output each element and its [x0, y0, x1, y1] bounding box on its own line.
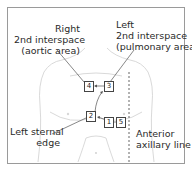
- label-line: (pulmonary area): [116, 41, 192, 52]
- label-left-sternal-edge: Left sternal edge: [10, 126, 60, 148]
- label-line: (aortic area): [14, 45, 80, 56]
- point-1: 1: [104, 117, 114, 128]
- label-line: edge: [10, 137, 60, 148]
- label-left-2nd-interspace: Left 2nd interspace (pulmonary area): [116, 19, 192, 52]
- label-line: Right: [14, 23, 80, 34]
- label-right-2nd-interspace: Right 2nd interspace (aortic area): [14, 23, 80, 56]
- label-anterior-axillary-line: Anterior axillary line: [136, 128, 191, 150]
- label-line: Anterior: [136, 128, 191, 139]
- label-line: Left: [116, 19, 192, 30]
- point-3: 3: [104, 81, 114, 92]
- label-line: axillary line: [136, 139, 191, 150]
- label-line: 2nd interspace: [116, 30, 192, 41]
- label-line: Left sternal: [10, 126, 60, 137]
- label-line: 2nd interspace: [14, 34, 80, 45]
- point-5: 5: [116, 117, 126, 128]
- point-2: 2: [86, 111, 96, 122]
- point-4: 4: [84, 81, 94, 92]
